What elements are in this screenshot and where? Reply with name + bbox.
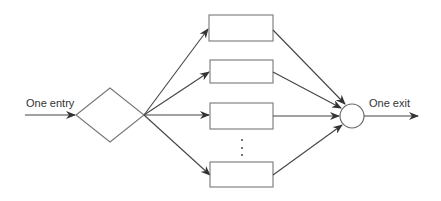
process-box-3 bbox=[210, 103, 273, 129]
branch-arrow-n bbox=[144, 115, 210, 175]
entry-label: One entry bbox=[26, 97, 74, 109]
ellipsis-dots bbox=[241, 139, 243, 156]
merge-arrow-1 bbox=[273, 30, 345, 104]
merge-arrow-n bbox=[273, 125, 342, 175]
process-box-1 bbox=[209, 15, 273, 41]
decision-diamond bbox=[76, 88, 144, 142]
branch-arrow-2 bbox=[144, 72, 209, 115]
process-box-2 bbox=[210, 60, 273, 83]
exit-label: One exit bbox=[369, 97, 410, 109]
junction-circle bbox=[340, 104, 364, 128]
process-box-n bbox=[210, 162, 273, 187]
branch-arrow-1 bbox=[144, 29, 208, 115]
